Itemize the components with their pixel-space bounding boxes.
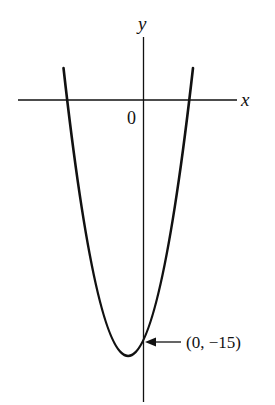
x-axis-label: x [240, 89, 250, 110]
y-axis-label: y [136, 13, 147, 34]
intercept-arrow-head-icon [145, 338, 156, 347]
origin-label: 0 [127, 108, 136, 128]
intercept-label: (0, −15) [186, 333, 241, 352]
parabola-chart: y x 0 (0, −15) [0, 0, 275, 405]
